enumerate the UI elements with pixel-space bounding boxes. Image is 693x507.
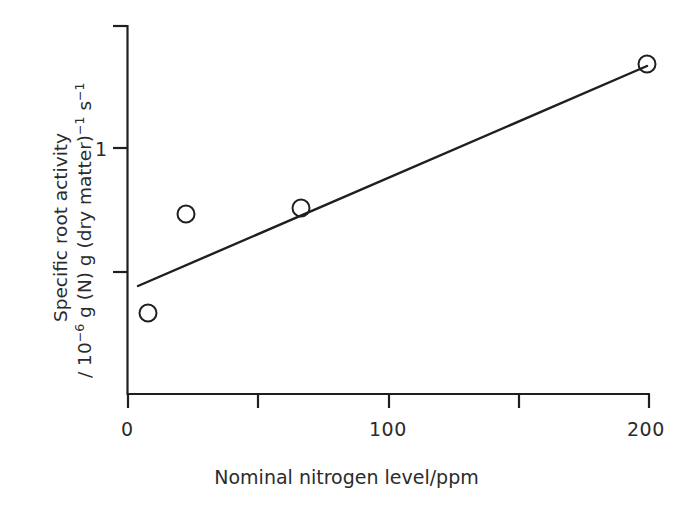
data-point [293, 200, 310, 217]
regression-line [138, 66, 647, 286]
y-axis-title-mid: g (N) g (dry matter) [74, 135, 95, 324]
x-tick-label-0: 0 [121, 418, 134, 440]
x-tick-label-100: 100 [369, 418, 407, 440]
y-axis-title-exponent-3: −1 [72, 82, 87, 101]
y-axis-title-exponent-2: −1 [72, 117, 87, 136]
data-point [140, 305, 157, 322]
data-point [639, 56, 656, 73]
y-axis-title-exponent-1: −6 [72, 324, 87, 343]
x-axis-title: Nominal nitrogen level/ppm [0, 466, 693, 488]
y-axis-title-line-1: Specific root activity [50, 133, 71, 322]
x-tick-label-200: 200 [627, 418, 665, 440]
y-tick-label-1: 1 [95, 138, 108, 160]
y-axis-title-mid-2: s [74, 101, 95, 117]
scatter-plot-figure: 1 0 100 200 Specific root activity / 10−… [0, 0, 693, 507]
data-point [178, 206, 195, 223]
y-axis-title-prefix: / 10 [74, 342, 95, 378]
plot-canvas [0, 0, 693, 507]
y-axis-title-line-2: / 10−6 g (N) g (dry matter)−1 s−1 [74, 82, 95, 378]
